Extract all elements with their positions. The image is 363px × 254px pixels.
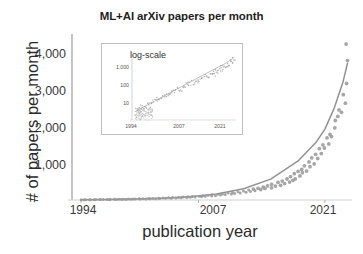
y-axis-label: # of papers per month: [23, 27, 42, 217]
x-tick-label-2021: 2021: [293, 203, 353, 217]
inset-y-tick-10: 10: [103, 100, 129, 106]
inset-y-tick-100: 100: [103, 82, 129, 88]
x-tick-label-2007: 2007: [183, 203, 243, 217]
inset-x-tick-2021: 2021: [207, 123, 233, 129]
log-scale-inset-panel: log-scale 1,000 100 10 1994 2007 2021: [101, 43, 243, 135]
chart-figure: ML+AI arXiv papers per month 4,000 3,000…: [0, 0, 363, 254]
inset-title: log-scale: [130, 50, 166, 60]
inset-x-tick-2007: 2007: [166, 123, 192, 129]
x-tick-label-1994: 1994: [53, 203, 113, 217]
x-axis-label: publication year: [60, 222, 340, 241]
inset-y-tick-1000: 1,000: [103, 64, 129, 70]
inset-x-tick-1994: 1994: [118, 123, 144, 129]
